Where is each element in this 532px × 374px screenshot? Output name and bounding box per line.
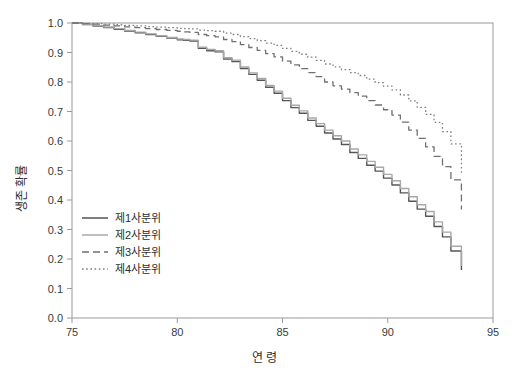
series-line-3 — [72, 23, 461, 209]
y-tick-label: 0.0 — [48, 312, 63, 324]
y-tick-label: 1.0 — [48, 17, 63, 29]
chart-canvas: 75808590950.00.10.20.30.40.50.60.70.80.9… — [0, 0, 532, 374]
x-tick-label: 80 — [171, 326, 183, 338]
x-tick-label: 95 — [487, 326, 499, 338]
y-tick-label: 0.4 — [48, 194, 63, 206]
x-tick-label: 75 — [66, 326, 78, 338]
y-axis-title: 생존 확률 — [15, 165, 29, 212]
legend-label-4: 제4사분위 — [115, 263, 161, 275]
legend-label-2: 제2사분위 — [115, 229, 161, 241]
survival-curve-chart: 75808590950.00.10.20.30.40.50.60.70.80.9… — [0, 0, 532, 374]
legend-label-1: 제1사분위 — [115, 212, 161, 224]
y-tick-label: 0.9 — [48, 47, 63, 59]
x-axis-title: 연 령 — [252, 351, 277, 365]
y-tick-label: 0.3 — [48, 224, 63, 236]
y-tick-label: 0.2 — [48, 253, 63, 265]
x-tick-label: 90 — [382, 326, 394, 338]
y-tick-label: 0.7 — [48, 106, 63, 118]
y-tick-label: 0.6 — [48, 135, 63, 147]
series-line-4 — [72, 23, 461, 174]
legend-label-3: 제3사분위 — [115, 246, 161, 258]
y-tick-label: 0.8 — [48, 76, 63, 88]
y-tick-label: 0.5 — [48, 165, 63, 177]
x-tick-label: 85 — [276, 326, 288, 338]
y-tick-label: 0.1 — [48, 283, 63, 295]
